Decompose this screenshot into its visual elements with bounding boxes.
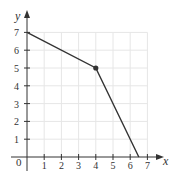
axis-ticks: 12345671234567 (14, 27, 150, 171)
x-tick-label: 7 (145, 160, 150, 171)
y-tick-label: 2 (14, 116, 19, 127)
y-tick-label: 5 (14, 63, 19, 74)
x-tick-label: 3 (76, 160, 81, 171)
x-tick-label: 6 (128, 160, 133, 171)
x-axis-label: x (162, 154, 169, 168)
data-point-marker (93, 65, 98, 70)
y-tick-label: 1 (14, 134, 19, 145)
x-tick-label: 1 (42, 160, 47, 171)
y-tick-label: 3 (14, 99, 19, 110)
y-axis-label: y (14, 9, 21, 23)
x-tick-label: 4 (93, 160, 98, 171)
y-axis-arrow-icon (24, 10, 30, 18)
x-tick-label: 5 (111, 160, 116, 171)
y-tick-label: 4 (14, 81, 19, 92)
x-tick-label: 2 (59, 160, 64, 171)
y-tick-label: 7 (14, 27, 19, 38)
y-tick-label: 6 (14, 45, 19, 56)
line-chart: 12345671234567 x y 0 (0, 0, 174, 180)
origin-label: 0 (16, 156, 22, 168)
axes (11, 10, 164, 171)
